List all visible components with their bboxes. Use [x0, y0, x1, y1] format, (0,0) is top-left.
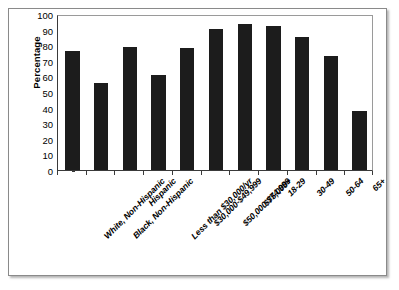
bar-chart: Percentage 0102030405060708090100 White,… [9, 9, 388, 275]
x-axis-tick-label: 50-64 [343, 176, 365, 198]
y-axis-tick-label: 20 [42, 134, 53, 145]
bar [266, 26, 280, 170]
bar [295, 37, 309, 170]
y-axis-tick-label: 10 [42, 150, 53, 161]
bar [209, 29, 223, 170]
bar [180, 48, 194, 170]
y-axis-tick-label: 60 [42, 72, 53, 83]
figure-frame: Percentage 0102030405060708090100 White,… [8, 8, 387, 276]
x-axis-tick-labels: White, Non-HispanicBlack, Non-HispanicHi… [57, 176, 373, 271]
x-axis-tick-mark [114, 171, 115, 175]
x-axis-tick-label: 65+ [370, 176, 387, 193]
bar [123, 47, 137, 170]
y-axis-tick-label: 100 [37, 10, 53, 21]
bar [238, 24, 252, 170]
x-axis-tick-mark [86, 171, 87, 175]
bar [352, 111, 366, 170]
x-axis-tick-mark [57, 171, 58, 175]
x-axis-tick-mark [372, 171, 373, 175]
y-axis-tick-label: 90 [42, 25, 53, 36]
x-axis-tick-mark [287, 171, 288, 175]
x-axis-tick-mark [258, 171, 259, 175]
y-axis-tick-label: 40 [42, 103, 53, 114]
x-axis-tick-mark [316, 171, 317, 175]
bars-layer [58, 16, 372, 170]
bar [94, 83, 108, 170]
y-axis-tick-label: 70 [42, 56, 53, 67]
y-axis-tick-label: 30 [42, 119, 53, 130]
x-axis-tick-label: 30-49 [314, 176, 336, 198]
y-axis-tick-labels: 0102030405060708090100 [27, 15, 53, 171]
y-axis-tick-label: 50 [42, 88, 53, 99]
x-axis-tick-label: Less than $30,000/yr [189, 176, 254, 241]
y-axis-tick-label: 80 [42, 41, 53, 52]
bar [324, 56, 338, 170]
bar [151, 75, 165, 170]
y-axis-tick-label: 0 [48, 166, 53, 177]
plot-area [57, 15, 373, 171]
x-axis-tick-mark [229, 171, 230, 175]
bar [65, 51, 79, 170]
x-axis-tick-mark [344, 171, 345, 175]
x-axis-tick-mark [201, 171, 202, 175]
x-axis-tick-mark [143, 171, 144, 175]
x-axis-tick-mark [172, 171, 173, 175]
